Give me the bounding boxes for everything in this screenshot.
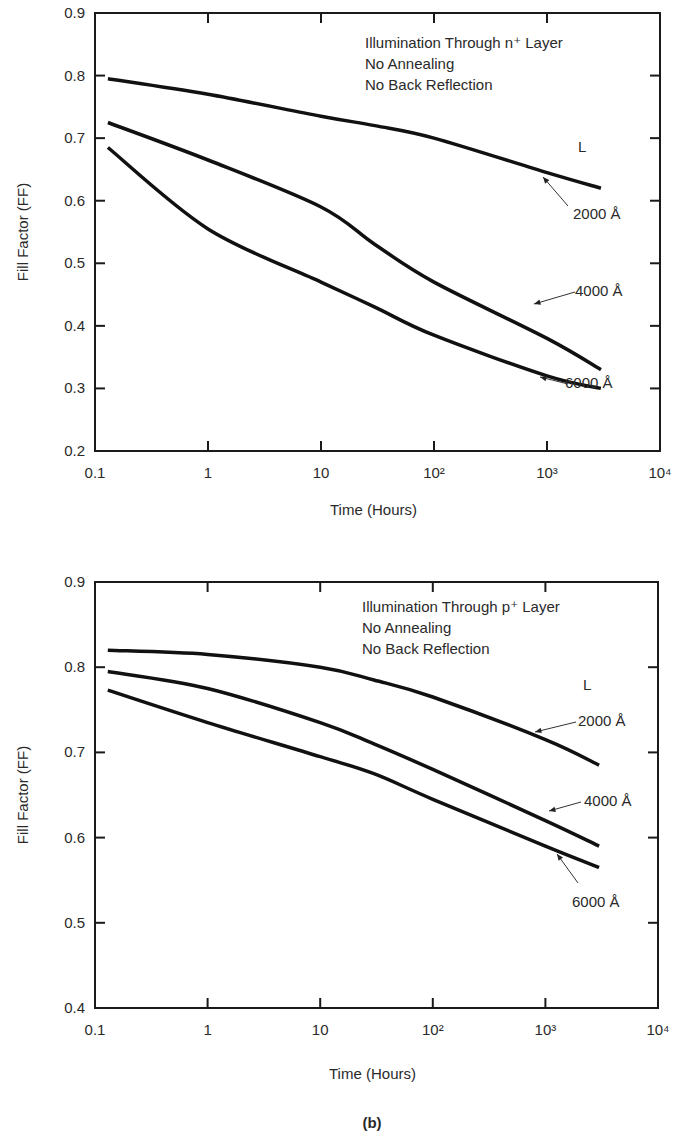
arrowhead-icon xyxy=(534,300,541,305)
y-tick-label: 0.8 xyxy=(64,67,85,84)
x-tick-label: 0.1 xyxy=(85,464,106,481)
x-tick-label: 1 xyxy=(204,464,212,481)
y-tick-label: 0.6 xyxy=(64,829,85,846)
y-tick-label: 0.5 xyxy=(64,914,85,931)
legend-title: L xyxy=(578,138,586,155)
y-tick-label: 0.7 xyxy=(64,743,85,760)
y-axis-title: Fill Factor (FF) xyxy=(14,183,31,281)
annotation-line: No Back Reflection xyxy=(362,640,490,657)
series-curve-1 xyxy=(108,650,599,765)
x-axis-title: Time (Hours) xyxy=(329,1065,416,1082)
y-tick-label: 0.3 xyxy=(64,379,85,396)
series-curve-3 xyxy=(108,148,601,389)
arrowhead-icon xyxy=(549,807,556,812)
x-tick-label: 10 xyxy=(313,464,330,481)
x-tick-label: 1 xyxy=(203,1021,211,1038)
series-label: 6000 Å xyxy=(572,893,620,910)
x-tick-label: 10³ xyxy=(536,464,558,481)
series-label: 2000 Å xyxy=(578,712,626,729)
series-label: 2000 Å xyxy=(573,205,621,222)
y-tick-label: 0.9 xyxy=(64,573,85,590)
figure-caption: (b) xyxy=(362,1114,381,1131)
chart-panel-2: 0.111010²10³10⁴0.40.50.60.70.80.9Time (H… xyxy=(14,573,670,1082)
annotation-line: Illumination Through p⁺ Layer xyxy=(362,598,560,615)
y-tick-label: 0.6 xyxy=(64,192,85,209)
arrowhead-icon xyxy=(540,376,547,381)
y-axis-title: Fill Factor (FF) xyxy=(14,746,31,844)
series-label: 4000 Å xyxy=(584,792,632,809)
x-tick-label: 10³ xyxy=(535,1021,557,1038)
arrowhead-icon xyxy=(557,854,563,861)
x-tick-label: 10⁴ xyxy=(648,464,671,481)
annotation-line: Illumination Through n⁺ Layer xyxy=(365,34,563,51)
series-curve-1 xyxy=(108,79,601,189)
x-tick-label: 0.1 xyxy=(85,1021,106,1038)
arrowhead-icon xyxy=(535,728,542,733)
chart-panel-1: 0.111010²10³10⁴0.20.30.40.50.60.70.80.9T… xyxy=(14,4,672,518)
legend-title: L xyxy=(583,676,591,693)
y-tick-label: 0.8 xyxy=(64,658,85,675)
y-tick-label: 0.7 xyxy=(64,129,85,146)
series-curve-2 xyxy=(108,672,599,847)
annotation-line: No Annealing xyxy=(362,619,451,636)
figure: 0.111010²10³10⁴0.20.30.40.50.60.70.80.9T… xyxy=(0,0,680,1142)
x-tick-label: 10⁴ xyxy=(646,1021,669,1038)
x-tick-label: 10² xyxy=(422,1021,444,1038)
y-tick-label: 0.4 xyxy=(64,999,85,1016)
series-curve-3 xyxy=(108,690,599,867)
annotation-line: No Back Reflection xyxy=(365,76,493,93)
series-curve-2 xyxy=(108,123,601,370)
y-tick-label: 0.5 xyxy=(64,254,85,271)
y-tick-label: 0.9 xyxy=(64,4,85,21)
x-tick-label: 10 xyxy=(312,1021,329,1038)
annotation-line: No Annealing xyxy=(365,55,454,72)
series-label: 4000 Å xyxy=(575,282,623,299)
y-tick-label: 0.2 xyxy=(64,442,85,459)
x-axis-title: Time (Hours) xyxy=(330,501,417,518)
y-tick-label: 0.4 xyxy=(64,317,85,334)
series-label: 6000 Å xyxy=(565,374,613,391)
x-tick-label: 10² xyxy=(423,464,445,481)
